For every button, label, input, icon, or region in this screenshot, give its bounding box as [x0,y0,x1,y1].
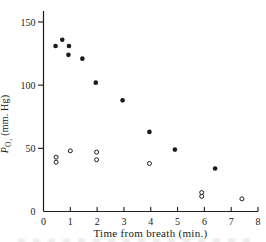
data-point-open [68,149,72,153]
data-point-filled [93,80,98,85]
x-tick-label: 6 [202,216,207,227]
data-point-filled [80,56,85,61]
data-point-open [147,161,151,165]
axis-ticks [38,22,258,212]
x-tick-label: 0 [41,216,46,227]
x-tick-label: 3 [121,216,126,227]
data-point-open [95,158,99,162]
axes [44,11,259,212]
data-point-filled [213,166,218,171]
scatter-figure: 012345678050100150 PO₂ (mm. Hg) Time fro… [0,0,266,242]
x-tick-label: 7 [229,216,234,227]
data-point-filled [66,53,71,58]
y-axis-title: PO₂ (mm. Hg) [0,58,13,190]
data-point-filled [147,130,152,135]
y-tick-label: 0 [31,206,36,217]
data-point-filled [173,147,178,152]
x-tick-label: 4 [148,216,153,227]
x-tick-label: 2 [95,216,100,227]
data-point-filled [53,44,58,49]
y-axis-units: (mm. Hg) [0,95,10,139]
y-axis-subscript: O₂ [4,139,13,147]
data-point-filled [67,44,72,49]
data-point-filled [120,98,125,103]
y-axis-symbol: P [0,147,10,153]
x-axis-title: Time from breath (min.) [43,227,258,239]
data-point-open [240,197,244,201]
data-points [53,37,244,200]
y-tick-label: 100 [21,80,36,91]
data-point-filled [60,37,65,42]
y-tick-label: 150 [21,17,36,28]
y-tick-label: 50 [26,143,36,154]
plot-svg: 012345678050100150 [0,0,266,242]
data-point-open [200,194,204,198]
x-tick-label: 5 [175,216,180,227]
x-tick-label: 8 [256,216,261,227]
x-tick-label: 1 [68,216,73,227]
data-point-open [54,155,58,159]
data-point-open [54,160,58,164]
data-point-open [95,150,99,154]
